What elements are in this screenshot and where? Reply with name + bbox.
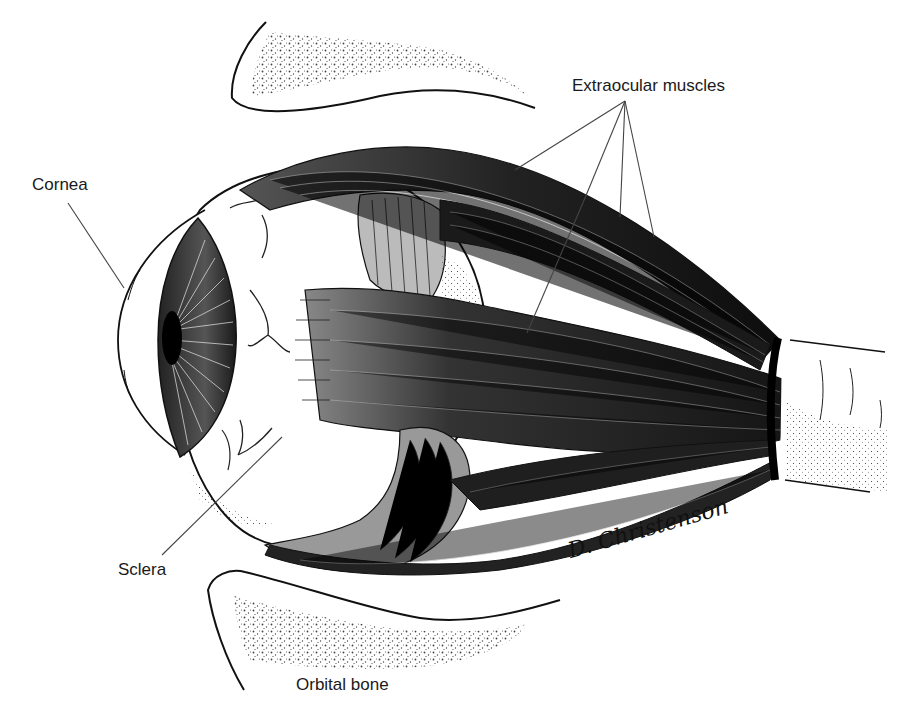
leader-extraocular-4 <box>625 101 654 237</box>
label-orbital-bone: Orbital bone <box>296 675 389 695</box>
label-sclera: Sclera <box>118 560 166 580</box>
leader-extraocular-2 <box>585 101 625 198</box>
eye-anatomy-illustration <box>0 0 922 712</box>
orbital-bone-upper <box>232 22 535 111</box>
label-extraocular-muscles: Extraocular muscles <box>572 76 725 96</box>
leader-extraocular-1 <box>515 101 625 170</box>
pupil <box>162 311 182 365</box>
orbital-bone-lower <box>208 571 560 690</box>
leader-extraocular-3 <box>620 101 625 217</box>
leader-cornea <box>68 203 124 288</box>
optic-nerve <box>771 338 888 492</box>
label-cornea: Cornea <box>32 175 88 195</box>
